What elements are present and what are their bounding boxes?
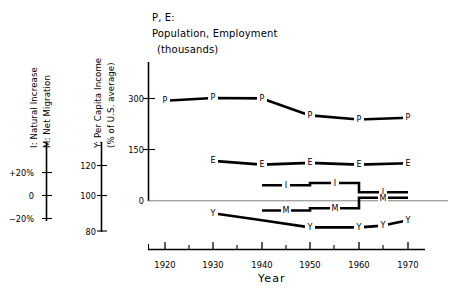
marker-net-migration: M	[378, 194, 388, 203]
income-axis-tick-label-100: 100	[72, 191, 96, 201]
marker-population: P	[354, 115, 364, 124]
main-axis-tick-label-0: 0	[118, 196, 144, 206]
x-tick-label-1960: 1960	[342, 260, 376, 270]
marker-net-migration: M	[281, 206, 291, 215]
x-axis-minor-ticks	[149, 244, 384, 250]
marker-population: P	[257, 94, 267, 103]
marker-per-capita-income: Y	[403, 216, 413, 225]
x-tick-label-1940: 1940	[245, 260, 279, 270]
marker-employment: E	[305, 158, 315, 167]
x-tick-label-1950: 1950	[293, 260, 327, 270]
income-axis-tick-label-120: 120	[72, 161, 96, 171]
left-axis-title-line-1: I: Natural Increase	[29, 67, 39, 148]
left-axis-tick-marks	[42, 173, 52, 219]
main-title-line-1: P, E:	[152, 12, 175, 23]
marker-population: P	[305, 111, 315, 120]
x-axis-major-ticks	[165, 242, 408, 250]
marker-net-migration: M	[330, 204, 340, 213]
marker-population: P	[208, 93, 218, 102]
marker-population: P	[403, 113, 413, 122]
income-axis-tick-label-80: 80	[72, 227, 96, 237]
left-axis-title-line-2: M: Net Migration	[42, 75, 52, 148]
marker-employment: E	[257, 160, 267, 169]
series-line-population	[165, 98, 408, 120]
marker-per-capita-income: Y	[208, 209, 218, 218]
income-axis-title-line-1: Y: Per Capita Income	[93, 58, 103, 148]
main-title-line-3: (thousands)	[157, 44, 218, 55]
left-axis-tick-label-zero: 0	[2, 191, 34, 201]
main-axis-tick-marks	[143, 99, 155, 150]
income-axis-tick-marks	[97, 166, 107, 232]
marker-natural-increase: I	[282, 181, 290, 190]
main-axis-tick-label-300: 300	[118, 94, 144, 104]
marker-employment: E	[354, 160, 364, 169]
marker-per-capita-income: Y	[378, 221, 388, 230]
marker-employment: E	[208, 156, 218, 165]
marker-per-capita-income: Y	[354, 223, 364, 232]
x-tick-label-1920: 1920	[148, 260, 182, 270]
main-title-line-2: Population, Employment	[152, 28, 278, 39]
income-axis-title-line-2: (% of U.S. average)	[106, 62, 116, 148]
left-axis-tick-label-plus20: +20%	[2, 168, 34, 178]
marker-per-capita-income: Y	[305, 223, 315, 232]
chart-canvas	[0, 0, 454, 288]
left-axis-tick-label-minus20: −20%	[2, 214, 34, 224]
marker-population: P	[160, 96, 170, 105]
main-axis-tick-label-150: 150	[118, 145, 144, 155]
marker-natural-increase: I	[331, 179, 339, 188]
marker-employment: E	[403, 159, 413, 168]
x-axis-title: Year	[258, 272, 286, 285]
x-tick-label-1970: 1970	[391, 260, 425, 270]
x-tick-label-1930: 1930	[196, 260, 230, 270]
